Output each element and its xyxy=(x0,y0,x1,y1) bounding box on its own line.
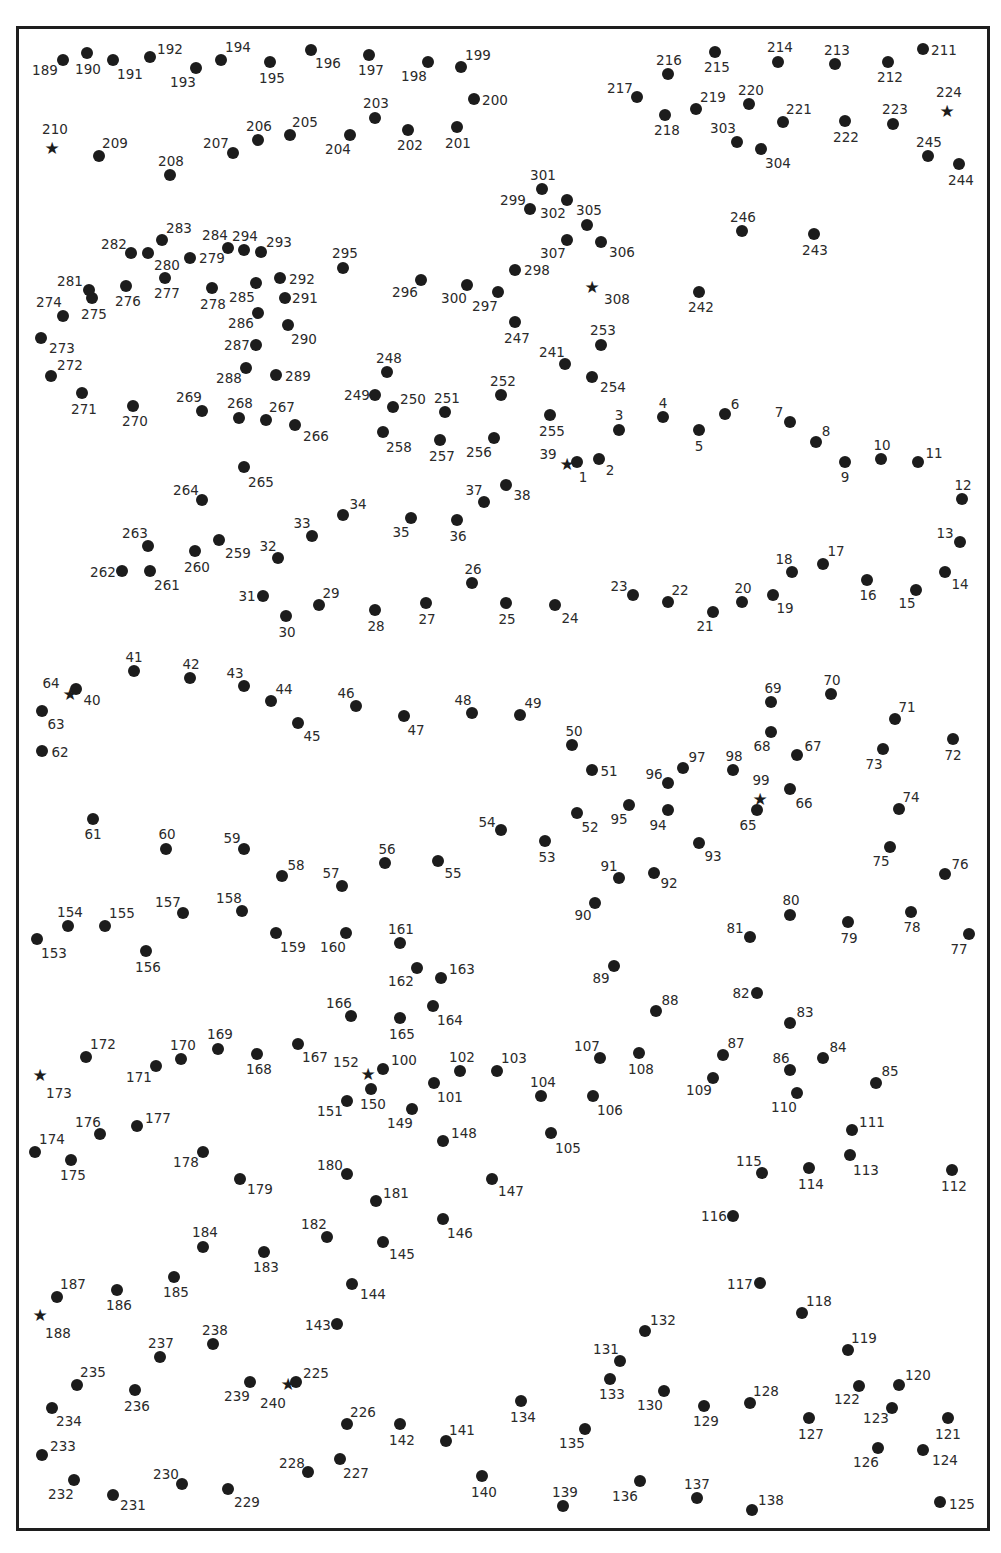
dot-point[interactable] xyxy=(331,1318,343,1330)
dot-point[interactable] xyxy=(111,1284,123,1296)
dot-point[interactable] xyxy=(406,1103,418,1115)
dot-point[interactable] xyxy=(402,124,414,136)
dot-point[interactable] xyxy=(238,461,250,473)
dot-point[interactable] xyxy=(939,566,951,578)
dot-point[interactable] xyxy=(29,1146,41,1158)
dot-point[interactable] xyxy=(466,707,478,719)
dot-point[interactable] xyxy=(116,565,128,577)
dot-point[interactable] xyxy=(377,426,389,438)
dot-point[interactable] xyxy=(434,434,446,446)
dot-point[interactable] xyxy=(127,400,139,412)
dot-point[interactable] xyxy=(755,143,767,155)
dot-point[interactable] xyxy=(784,783,796,795)
dot-point[interactable] xyxy=(264,56,276,68)
dot-point[interactable] xyxy=(784,909,796,921)
dot-point[interactable] xyxy=(586,764,598,776)
dot-point[interactable] xyxy=(164,169,176,181)
dot-point[interactable] xyxy=(369,604,381,616)
start-star-icon[interactable]: ★ xyxy=(44,140,60,156)
dot-point[interactable] xyxy=(215,54,227,66)
dot-point[interactable] xyxy=(662,68,674,80)
dot-point[interactable] xyxy=(238,680,250,692)
dot-point[interactable] xyxy=(377,1063,389,1075)
dot-point[interactable] xyxy=(350,700,362,712)
dot-point[interactable] xyxy=(428,1077,440,1089)
dot-point[interactable] xyxy=(942,1412,954,1424)
dot-point[interactable] xyxy=(207,1338,219,1350)
dot-point[interactable] xyxy=(875,453,887,465)
dot-point[interactable] xyxy=(648,867,660,879)
start-star-icon[interactable]: ★ xyxy=(939,103,955,119)
dot-point[interactable] xyxy=(677,762,689,774)
dot-point[interactable] xyxy=(842,916,854,928)
dot-point[interactable] xyxy=(306,530,318,542)
dot-point[interactable] xyxy=(289,419,301,431)
dot-point[interactable] xyxy=(829,58,841,70)
dot-point[interactable] xyxy=(252,134,264,146)
dot-point[interactable] xyxy=(613,424,625,436)
dot-point[interactable] xyxy=(736,596,748,608)
dot-point[interactable] xyxy=(595,339,607,351)
dot-point[interactable] xyxy=(659,109,671,121)
dot-point[interactable] xyxy=(934,1496,946,1508)
dot-point[interactable] xyxy=(468,93,480,105)
dot-point[interactable] xyxy=(197,1241,209,1253)
dot-point[interactable] xyxy=(893,1379,905,1391)
dot-point[interactable] xyxy=(451,514,463,526)
dot-point[interactable] xyxy=(693,837,705,849)
dot-point[interactable] xyxy=(65,1154,77,1166)
dot-point[interactable] xyxy=(466,577,478,589)
dot-point[interactable] xyxy=(917,1444,929,1456)
dot-point[interactable] xyxy=(777,116,789,128)
dot-point[interactable] xyxy=(956,493,968,505)
dot-point[interactable] xyxy=(422,56,434,68)
dot-point[interactable] xyxy=(80,1051,92,1063)
dot-point[interactable] xyxy=(420,597,432,609)
dot-point[interactable] xyxy=(946,1164,958,1176)
dot-point[interactable] xyxy=(939,868,951,880)
dot-point[interactable] xyxy=(190,62,202,74)
dot-point[interactable] xyxy=(238,244,250,256)
dot-point[interactable] xyxy=(196,405,208,417)
dot-point[interactable] xyxy=(808,228,820,240)
dot-point[interactable] xyxy=(432,855,444,867)
dot-point[interactable] xyxy=(744,931,756,943)
dot-point[interactable] xyxy=(439,406,451,418)
dot-point[interactable] xyxy=(509,316,521,328)
dot-point[interactable] xyxy=(882,56,894,68)
dot-point[interactable] xyxy=(212,1043,224,1055)
dot-point[interactable] xyxy=(877,743,889,755)
start-star-icon[interactable]: ★ xyxy=(280,1376,296,1392)
dot-point[interactable] xyxy=(387,401,399,413)
dot-point[interactable] xyxy=(282,319,294,331)
dot-point[interactable] xyxy=(954,536,966,548)
dot-point[interactable] xyxy=(274,272,286,284)
dot-point[interactable] xyxy=(280,610,292,622)
dot-point[interactable] xyxy=(803,1162,815,1174)
dot-point[interactable] xyxy=(394,1418,406,1430)
dot-point[interactable] xyxy=(120,280,132,292)
dot-point[interactable] xyxy=(922,150,934,162)
dot-point[interactable] xyxy=(131,1120,143,1132)
dot-point[interactable] xyxy=(236,905,248,917)
dot-point[interactable] xyxy=(803,1412,815,1424)
dot-point[interactable] xyxy=(93,150,105,162)
dot-point[interactable] xyxy=(189,545,201,557)
dot-point[interactable] xyxy=(213,534,225,546)
dot-point[interactable] xyxy=(270,927,282,939)
dot-point[interactable] xyxy=(257,590,269,602)
dot-point[interactable] xyxy=(270,369,282,381)
dot-point[interactable] xyxy=(159,272,171,284)
dot-point[interactable] xyxy=(370,1195,382,1207)
dot-point[interactable] xyxy=(662,804,674,816)
dot-point[interactable] xyxy=(154,1351,166,1363)
dot-point[interactable] xyxy=(369,112,381,124)
dot-point[interactable] xyxy=(746,1504,758,1516)
dot-point[interactable] xyxy=(160,843,172,855)
dot-point[interactable] xyxy=(365,1083,377,1095)
dot-point[interactable] xyxy=(650,1005,662,1017)
dot-point[interactable] xyxy=(476,1470,488,1482)
dot-point[interactable] xyxy=(379,857,391,869)
dot-point[interactable] xyxy=(31,933,43,945)
dot-point[interactable] xyxy=(817,558,829,570)
